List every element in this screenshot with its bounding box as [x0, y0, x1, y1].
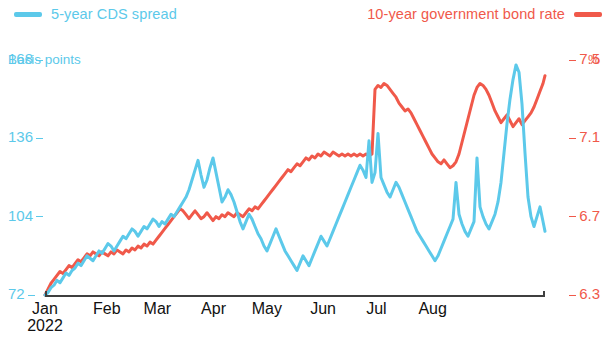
tick-dash-icon: [36, 216, 43, 217]
tick-dash-icon: [36, 60, 43, 61]
legend-item-bond: 10-year government bond rate: [367, 6, 602, 22]
tick-dash-icon: [569, 138, 576, 139]
x-tick-label: Aug: [409, 300, 457, 318]
legend-item-cds: 5-year CDS spread: [14, 6, 177, 22]
left-tick-label: 168: [8, 50, 46, 67]
left-tick-label: 136: [8, 128, 46, 145]
right-tick-label: 6.7: [566, 207, 600, 224]
series-svg: [45, 60, 545, 295]
x-axis-year-label: 2022: [21, 317, 69, 335]
x-tick-label: Apr: [190, 300, 238, 318]
series-line-bond: [45, 76, 545, 295]
x-tick-label: Jul: [352, 300, 400, 318]
tick-dash-icon: [569, 216, 576, 217]
tick-dash-icon: [28, 295, 35, 296]
legend-label-cds: 5-year CDS spread: [51, 6, 177, 22]
x-tick-label: Feb: [83, 300, 131, 318]
x-axis-cap-start: [45, 291, 47, 297]
x-tick-label: Mar: [133, 300, 181, 318]
tick-dash-icon: [36, 138, 43, 139]
line-swatch-icon-cds: [14, 12, 42, 17]
x-axis-cap-end: [543, 291, 545, 297]
left-tick-label: 104: [8, 207, 46, 224]
chart-figure: 5-year CDS spread 10-year government bon…: [0, 0, 608, 343]
line-swatch-icon-bond: [574, 12, 602, 17]
x-tick-label: Jan2022: [21, 300, 69, 335]
series-line-cds: [45, 65, 545, 295]
tick-dash-icon: [569, 295, 576, 296]
tick-dash-icon: [569, 60, 576, 61]
x-axis-line: [45, 295, 545, 297]
x-tick-label: Jun: [299, 300, 347, 318]
x-tick-label: May: [243, 300, 291, 318]
plot-area: [45, 60, 545, 295]
legend-label-bond: 10-year government bond rate: [367, 6, 565, 22]
right-tick-label: 7.5: [566, 50, 600, 67]
right-tick-label: 7.1: [566, 128, 600, 145]
right-tick-label: 6.3: [566, 285, 600, 302]
